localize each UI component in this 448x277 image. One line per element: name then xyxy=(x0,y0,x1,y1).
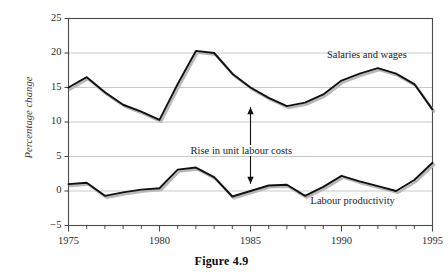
annotation-arrowhead-up xyxy=(247,107,253,114)
x-tick-label-1980: 1980 xyxy=(138,235,182,246)
y-tick-label-10: 10 xyxy=(32,115,62,126)
y-axis-ticks xyxy=(65,19,69,226)
y-tick-label-25: 25 xyxy=(32,12,62,23)
y-tick-label-20: 20 xyxy=(32,46,62,57)
y-tick-label--5: −5 xyxy=(32,219,62,230)
x-tick-label-1975: 1975 xyxy=(47,235,91,246)
x-tick-label-1995: 1995 xyxy=(411,235,448,246)
x-tick-label-1990: 1990 xyxy=(320,235,364,246)
series-label-labour-productivity: Labour productivity xyxy=(311,195,395,206)
y-tick-label-0: 0 xyxy=(32,184,62,195)
figure-caption: Figure 4.9 xyxy=(0,254,443,269)
data-series-lines xyxy=(69,51,435,198)
annotation-arrowhead-down xyxy=(247,177,253,184)
x-axis-ticks xyxy=(69,226,433,232)
series-label-salaries-and-wages: Salaries and wages xyxy=(327,49,407,60)
y-tick-label-15: 15 xyxy=(32,81,62,92)
series-shadow-labour-productivity xyxy=(70,165,434,199)
annotation-label-unit-labour-costs: Rise in unit labour costs xyxy=(189,145,295,156)
x-tick-label-1985: 1985 xyxy=(229,235,273,246)
y-tick-label-5: 5 xyxy=(32,150,62,161)
